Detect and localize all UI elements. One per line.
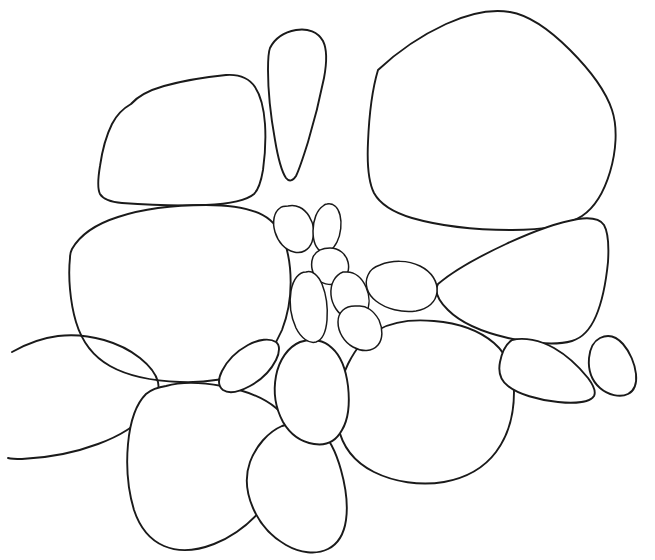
cell-diagram-canvas <box>0 0 655 560</box>
cell-diagram-figure <box>0 0 655 560</box>
